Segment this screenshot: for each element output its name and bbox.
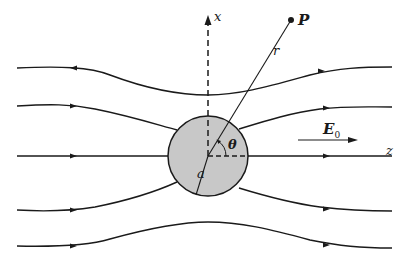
field-E-subscript: 0 xyxy=(334,130,340,140)
x-axis-label: x xyxy=(214,9,221,24)
field-line-bottom xyxy=(17,222,392,248)
e0-arrowhead-icon xyxy=(348,137,358,143)
field-line-top xyxy=(17,67,392,95)
z-axis-label: z xyxy=(386,143,393,158)
arrowhead-icon xyxy=(70,208,77,213)
point-P xyxy=(288,17,294,23)
x-axis-arrowhead-icon xyxy=(205,15,212,25)
arrowhead-icon xyxy=(70,104,77,109)
arrowhead-icon xyxy=(323,106,330,111)
field-line-lower xyxy=(17,182,177,211)
angle-theta-label: θ xyxy=(228,137,237,152)
radius-vector-r xyxy=(208,20,291,156)
point-P-label: P xyxy=(298,11,309,29)
sphere-radius-label: a xyxy=(197,166,205,181)
field-E-symbol: E xyxy=(323,120,334,138)
field-line-lower-right xyxy=(239,188,392,211)
field-E0-label: E0 xyxy=(323,120,340,140)
arrowhead-icon xyxy=(323,154,330,159)
radius-vector-label: r xyxy=(273,43,279,58)
arrowhead-icon xyxy=(70,154,77,159)
sphere-in-uniform-field-diagram xyxy=(0,0,409,269)
arrowhead-icon xyxy=(70,66,77,71)
field-line-upper-right xyxy=(239,107,392,129)
field-line-upper xyxy=(17,105,177,130)
